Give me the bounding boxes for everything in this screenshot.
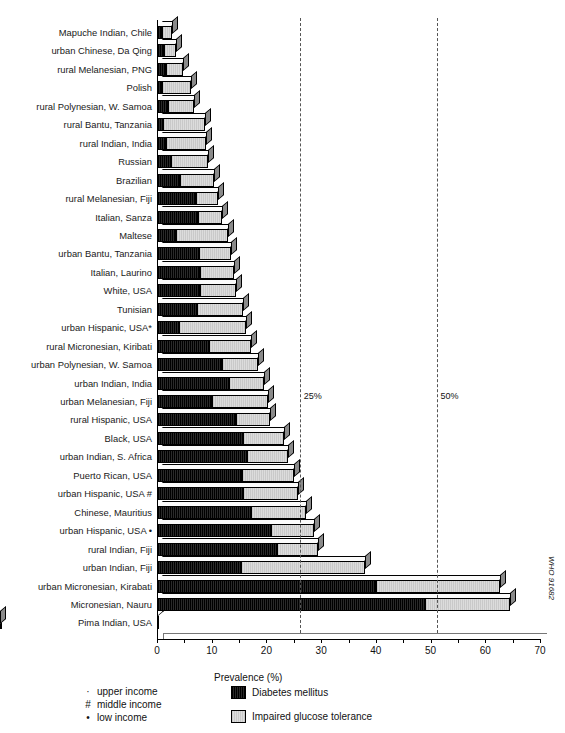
bar-row: Micronesian, Nauru [0, 598, 565, 613]
bar-row: rural Polynesian, W. Samoa [0, 100, 565, 115]
bar-segment-diabetes [157, 580, 376, 593]
bar-segment-diabetes [157, 44, 164, 57]
bar-row: urban Bantu, Tanzania [0, 247, 565, 262]
bar-segment-igt [166, 137, 206, 150]
bar-segment-igt [425, 598, 510, 611]
bar-row: rural Melanesian, PNG [0, 63, 565, 78]
bar-end-cap [206, 127, 212, 145]
bar-row: rural Bantu, Tanzania [0, 118, 565, 133]
category-label: urban Hispanic, USA* [2, 322, 152, 333]
bar-row: Italian, Laurino [0, 266, 565, 281]
bar-end-cap [172, 16, 178, 34]
bar-segment-diabetes [157, 303, 197, 316]
bar-segment-diabetes [157, 266, 200, 279]
category-label: Puerto Rican, USA [2, 470, 152, 481]
x-axis-tick [184, 639, 185, 643]
bar-row: Pima Indian, USA [0, 616, 565, 631]
bar-segment-diabetes [157, 561, 241, 574]
category-label: Tunisian [2, 304, 152, 315]
bar-segment-igt [241, 561, 365, 574]
reference-line-label: 50% [441, 391, 459, 401]
who-code: WHO 91682 [547, 556, 556, 600]
bar-segment-diabetes [157, 340, 209, 353]
category-label: Black, USA [2, 433, 152, 444]
x-axis-tick-label: 20 [251, 645, 281, 656]
income-label: middle income [97, 699, 161, 710]
bar-segment-diabetes [157, 192, 196, 205]
bar-segment-diabetes [157, 284, 200, 297]
bar-segment-igt [222, 358, 258, 371]
bar-row: White, USA [0, 284, 565, 299]
bar-segment-igt [242, 469, 294, 482]
bar-row: urban Indian, Fiji [0, 561, 565, 576]
category-label: rural Hispanic, USA [2, 414, 152, 425]
x-axis-tick [294, 639, 295, 643]
bar-segment-diabetes [157, 487, 243, 500]
category-label: urban Indian, S. Africa [2, 451, 152, 462]
bar-end-cap [205, 108, 211, 126]
bar-segment-igt [162, 81, 191, 94]
bar-segment-igt [171, 155, 208, 168]
bar-segment-igt [236, 413, 270, 426]
x-axis-tick [485, 639, 486, 643]
category-label: White, USA [2, 285, 152, 296]
bar-segment-diabetes [157, 469, 242, 482]
bar-segment-diabetes [157, 598, 425, 611]
reference-line-label: 25% [304, 391, 322, 401]
bar-end-cap [214, 164, 220, 182]
bar-segment-igt [271, 524, 314, 537]
bar-segment-igt [243, 432, 284, 445]
bar-segment-igt [199, 247, 231, 260]
bar-row: rural Micronesian, Kiribati [0, 340, 565, 355]
chart-root: Mapuche Indian, Chileurban Chinese, Da Q… [0, 0, 565, 733]
category-label: Mapuche Indian, Chile [2, 27, 152, 38]
bar-segment-diabetes [157, 174, 180, 187]
legend-label-impaired-glucose-tolerance: Impaired glucose tolerance [252, 711, 372, 722]
bar-row: urban Indian, India [0, 377, 565, 392]
y-axis-line [157, 20, 158, 639]
bar-segment-diabetes [157, 395, 212, 408]
bar-end-cap [191, 71, 197, 89]
bar-end-cap [306, 496, 312, 514]
bar-segment-igt [247, 450, 287, 463]
bar-segment-diabetes [157, 358, 222, 371]
bar-end-cap [365, 551, 371, 569]
x-axis-tick [212, 639, 213, 643]
category-label: Italian, Sanza [2, 212, 152, 223]
bar-segment-igt [376, 580, 500, 593]
bar-end-cap [208, 145, 214, 163]
bar-end-cap [236, 274, 242, 292]
x-axis-tick-label: 50 [416, 645, 446, 656]
bar-end-cap [270, 403, 276, 421]
bar-row: rural Indian, India [0, 137, 565, 152]
bar-segment-igt [243, 487, 298, 500]
x-axis-tick [239, 639, 240, 643]
category-label: urban Indian, Fiji [2, 562, 152, 573]
bar-segment-igt [200, 284, 236, 297]
income-symbol: • [82, 712, 94, 723]
bar-segment-diabetes [157, 155, 171, 168]
bar-segment-igt [277, 543, 318, 556]
category-label: Brazilian [2, 175, 152, 186]
income-label: upper income [97, 686, 158, 697]
x-axis-tick [458, 639, 459, 643]
category-label: Maltese [2, 230, 152, 241]
x-axis-tick [157, 639, 158, 643]
x-axis-tick-label: 60 [470, 645, 500, 656]
x-axis-tick [266, 639, 267, 643]
bar-segment-igt [251, 506, 306, 519]
bar-row: Mapuche Indian, Chile [0, 26, 565, 41]
category-label: rural Polynesian, W. Samoa [2, 101, 152, 112]
bar-end-cap [258, 348, 264, 366]
bar-segment-igt [180, 174, 214, 187]
x-axis-tick [513, 639, 514, 643]
bar-end-cap [231, 237, 237, 255]
bar-segment-diabetes [157, 413, 236, 426]
income-symbol: # [82, 699, 94, 710]
bar-row: rural Melanesian, Fiji [0, 192, 565, 207]
bar-row: Brazilian [0, 174, 565, 189]
category-label: rural Melanesian, Fiji [2, 193, 152, 204]
x-axis-tick-label: 40 [361, 645, 391, 656]
bar-row: urban Melanesian, Fiji [0, 395, 565, 410]
category-label: Italian, Laurino [2, 267, 152, 278]
